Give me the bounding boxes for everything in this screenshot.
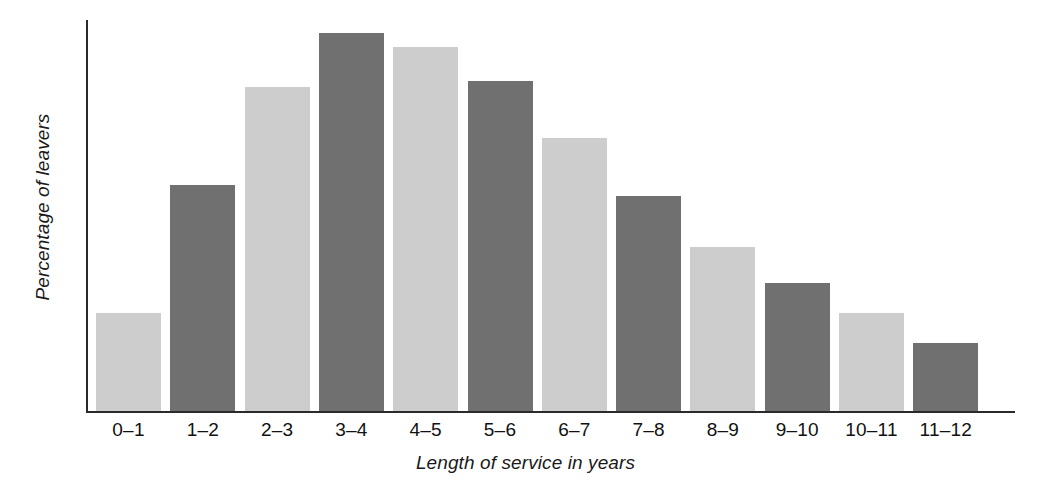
x-tick-label: 1–2 [166,419,240,441]
plot-area [0,0,1051,486]
x-tick-label: 3–4 [314,419,388,441]
bar-9-10 [765,283,830,411]
bar-8-9 [690,247,755,411]
bar-chart-figure: Percentage of leavers Length of service … [0,0,1051,486]
bar-4-5 [393,47,458,411]
bar-6-7 [542,138,607,411]
x-tick-label: 10–11 [835,419,909,441]
x-tick-label: 8–9 [686,419,760,441]
x-tick-label: 9–10 [760,419,834,441]
bar-3-4 [319,33,384,411]
x-tick-label: 6–7 [537,419,611,441]
bar-11-12 [913,343,978,411]
x-tick-label: 2–3 [240,419,314,441]
bar-7-8 [616,196,681,411]
x-axis-title: Length of service in years [0,452,1051,474]
bar-5-6 [468,81,533,411]
x-tick-label: 7–8 [612,419,686,441]
bar-1-2 [170,185,235,411]
x-tick-label: 11–12 [909,419,983,441]
bar-10-11 [839,313,904,411]
x-tick-label: 5–6 [463,419,537,441]
x-tick-label: 4–5 [389,419,463,441]
bar-2-3 [245,87,310,411]
bar-0-1 [96,313,161,411]
x-tick-label: 0–1 [92,419,166,441]
